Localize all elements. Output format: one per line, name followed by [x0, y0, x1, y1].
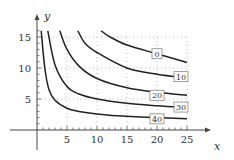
contour-chart: 51015202551015 010203040 x y — [0, 0, 234, 160]
level-curve-30 — [48, 31, 187, 108]
x-tick-label: 20 — [151, 134, 164, 145]
y-axis-label: y — [43, 10, 51, 23]
x-tick-label: 25 — [181, 134, 194, 145]
y-axis-arrow-icon — [35, 14, 40, 20]
level-curves — [41, 31, 187, 119]
curve-label-40: 40 — [152, 115, 162, 124]
curve-label-10: 10 — [176, 73, 186, 82]
x-axis-arrow-icon — [205, 128, 211, 133]
axis-ticks: 51015202551015 — [18, 31, 193, 145]
x-tick-label: 5 — [64, 134, 70, 145]
level-curve-0 — [101, 31, 187, 63]
y-tick-label: 10 — [18, 63, 31, 74]
curve-label-30: 30 — [176, 103, 186, 112]
curve-label-20: 20 — [152, 91, 162, 100]
y-tick-label: 15 — [18, 32, 31, 43]
curve-labels: 010203040 — [150, 49, 188, 124]
level-curve-20 — [60, 31, 187, 95]
x-axis-label: x — [214, 140, 221, 153]
curve-label-0: 0 — [154, 50, 159, 59]
level-curve-10 — [78, 31, 187, 78]
y-tick-label: 5 — [25, 94, 31, 105]
x-tick-label: 10 — [91, 134, 104, 145]
x-tick-label: 15 — [121, 134, 134, 145]
